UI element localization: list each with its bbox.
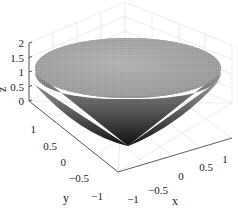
y-axis-label: y [63, 191, 69, 205]
z-tick-0: 0 [19, 95, 25, 107]
y-axis: 1 0.5 0 −0.5 −1 y [31, 123, 104, 205]
x-axis-label: x [172, 194, 178, 208]
z-tick-2: 2 [19, 37, 25, 49]
y-tick-1: 1 [31, 123, 37, 135]
y-tick-neg1: −1 [91, 190, 103, 202]
z-tick-1: 1 [19, 66, 25, 78]
x-tick-neg0.5: −0.5 [148, 184, 168, 196]
cone-surface [35, 38, 221, 146]
z-axis-label: z [0, 87, 9, 92]
z-axis: 2 1.5 1 0.5 0 z [0, 37, 32, 107]
y-tick-0.5: 0.5 [43, 140, 57, 152]
x-tick-0.5: 0.5 [199, 161, 213, 173]
y-tick-0: 0 [61, 156, 67, 168]
x-tick-neg1: −1 [127, 193, 139, 205]
x-tick-0: 0 [178, 170, 184, 182]
z-tick-0.5: 0.5 [10, 81, 24, 93]
x-tick-1: 1 [222, 153, 228, 165]
cone-surface-plot: 2 1.5 1 0.5 0 z 1 0.5 0 −0.5 −1 y −1 −0.… [0, 0, 238, 211]
y-tick-neg0.5: −0.5 [69, 172, 89, 184]
z-tick-1.5: 1.5 [10, 52, 24, 64]
